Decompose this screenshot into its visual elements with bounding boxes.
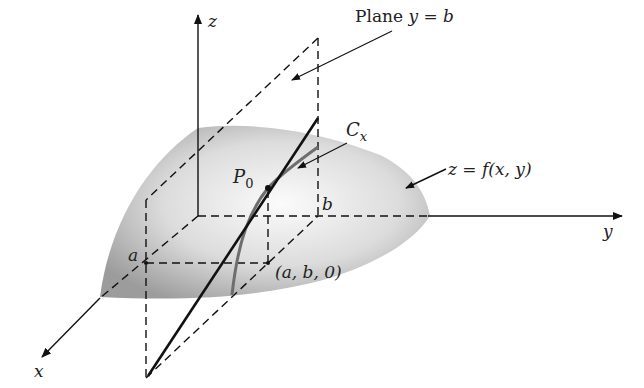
point-p0 <box>265 185 271 191</box>
y-axis-label: y <box>602 221 613 241</box>
point-ab0 <box>266 261 270 265</box>
b-label: b <box>322 194 333 214</box>
z-axis-label: z <box>207 11 218 31</box>
curve-label: Cx <box>346 119 368 144</box>
x-axis <box>42 298 100 357</box>
a-label: a <box>128 245 138 265</box>
surface-shape <box>100 126 430 299</box>
surface-diagram: z y x Plane y = b Cx z = f(x, y) P0 a b … <box>0 0 644 388</box>
point-a <box>144 261 148 265</box>
surface-label: z = f(x, y) <box>447 159 532 179</box>
base-point-label: (a, b, 0) <box>275 262 342 282</box>
plane-label: Plane y = b <box>355 6 454 26</box>
plane-leader-arrow <box>292 31 392 80</box>
surface-leader-arrow <box>406 169 446 188</box>
x-axis-label: x <box>34 361 44 381</box>
